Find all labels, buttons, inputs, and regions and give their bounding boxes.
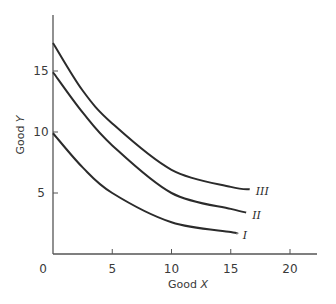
y-axis-title: Good Y [14, 115, 27, 154]
x-tick-label: 0 [39, 262, 47, 276]
y-tick-label: 15 [33, 64, 48, 78]
x-tick-label: 15 [223, 262, 238, 276]
x-axis-title-var: X [200, 278, 208, 291]
indifference-curve-II [53, 72, 246, 212]
indifference-curves [53, 43, 250, 233]
x-tick-label: 20 [282, 262, 297, 276]
y-axis-title-text: Good [14, 122, 27, 154]
curve-label-I: I [243, 229, 247, 242]
curve-label-II: II [252, 208, 261, 221]
y-axis-title-var: Y [14, 115, 27, 122]
indifference-curve-chart [0, 0, 336, 304]
x-tick-label: 5 [108, 262, 116, 276]
curve-label-III: III [256, 185, 269, 198]
y-tick-label: 10 [33, 125, 48, 139]
x-tick-label: 10 [164, 262, 179, 276]
x-axis-title: Good X [168, 278, 208, 291]
axes [53, 15, 317, 254]
y-tick-label: 5 [37, 186, 45, 200]
x-axis-title-text: Good [168, 278, 200, 291]
